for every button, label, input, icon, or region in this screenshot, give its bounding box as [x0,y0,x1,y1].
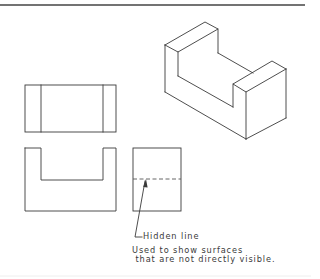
hidden-line-callout: Hidden line [143,232,199,241]
note-line-2: that are not directly visible. [132,255,276,264]
isometric-view [165,22,286,139]
leader-line [135,179,148,237]
top-view [25,85,116,132]
front-view [25,148,116,211]
side-view [133,148,181,211]
arrowhead-icon [143,179,147,188]
